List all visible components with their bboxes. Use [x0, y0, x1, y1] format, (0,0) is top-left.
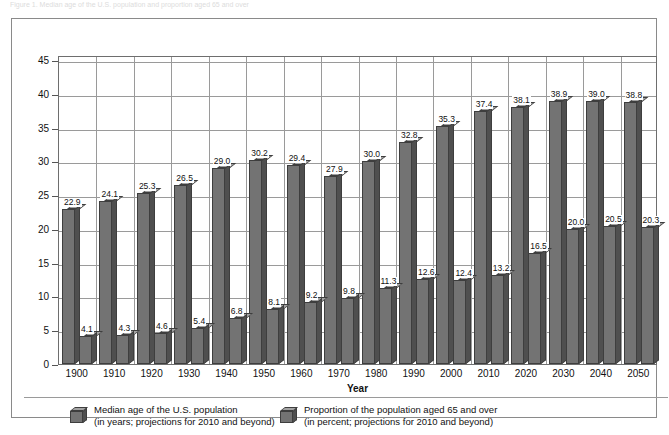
- bar-value-label: 16.5: [529, 242, 548, 251]
- bar-value-label: 29.4: [288, 154, 307, 163]
- top-caption: Figure 1. Median age of the U.S. populat…: [10, 0, 430, 9]
- bar-value-label: 5.4: [192, 317, 206, 326]
- x-tick-label: 2020: [507, 368, 544, 380]
- x-tick-label: 2030: [545, 368, 582, 380]
- x-tick-label: 1990: [395, 368, 432, 380]
- bar-value-label: 30.0: [363, 150, 382, 159]
- x-tick-label: 1930: [170, 368, 207, 380]
- y-tick-label: 35: [38, 124, 49, 134]
- bar-value-label: 38.9: [550, 90, 569, 99]
- figure-frame: 051015202530354045 22.924.125.326.529.03…: [11, 18, 657, 418]
- legend-swatch-proportion-65-plus: [280, 408, 297, 423]
- bar-value-label: 12.6: [417, 268, 436, 277]
- x-axis-title: Year: [58, 383, 657, 394]
- bar-value-label: 38.1: [512, 96, 531, 105]
- bar-value-label: 9.8: [342, 287, 356, 296]
- legend-label-line1: Proportion of the population aged 65 and…: [304, 404, 497, 416]
- y-tick-label: 40: [38, 90, 49, 100]
- bar-value-label: 20.0: [567, 218, 586, 227]
- bar-value-label: 25.3: [138, 182, 157, 191]
- legend-swatch-median-age: [70, 408, 87, 423]
- y-tick-label: 45: [38, 56, 49, 66]
- x-tick-label: 1920: [133, 368, 170, 380]
- bar-value-label: 11.3: [380, 277, 398, 286]
- y-tick-label: 15: [38, 259, 49, 269]
- x-tick-label: 1910: [95, 368, 132, 380]
- x-tick-label: 1970: [320, 368, 357, 380]
- x-tick-label: 1980: [358, 368, 395, 380]
- legend-label-line2: (in percent; projections for 2010 and be…: [304, 416, 497, 428]
- bar-value-label: 38.8: [625, 91, 644, 100]
- x-tick-label: 2000: [432, 368, 469, 380]
- x-tick-label: 1950: [245, 368, 282, 380]
- y-tick-label: 20: [38, 225, 49, 235]
- y-tick-label: 10: [38, 292, 49, 302]
- bar-value-label: 24.1: [100, 190, 119, 199]
- bar-value-label: 13.2: [492, 264, 511, 273]
- bar-value-label: 37.4: [475, 100, 494, 109]
- bar-value-label: 8.1: [267, 298, 281, 307]
- bar-value-label: 22.9: [63, 198, 82, 207]
- legend-label-line2: (in years; projections for 2010 and beyo…: [94, 416, 275, 428]
- bar-value-label: 20.3: [642, 216, 661, 225]
- y-tick-label: 30: [38, 157, 49, 167]
- x-tick-label: 2050: [620, 368, 657, 380]
- y-axis: 051015202530354045: [23, 56, 58, 365]
- x-axis: 1900191019201930194019501960197019801990…: [58, 368, 657, 384]
- bar-value-label: 9.2: [305, 291, 319, 300]
- x-tick-label: 1940: [208, 368, 245, 380]
- bar-value-label: 4.3: [117, 324, 131, 333]
- y-tick-label: 5: [43, 326, 49, 336]
- bar-value-label: 4.1: [80, 325, 94, 334]
- x-tick-label: 1960: [283, 368, 320, 380]
- y-tick-label: 0: [43, 360, 49, 370]
- bar-value-label: 39.0: [587, 90, 606, 99]
- bar-value-label: 29.0: [213, 157, 232, 166]
- value-labels-layer: 22.924.125.326.529.030.229.427.930.032.8…: [59, 57, 656, 364]
- bar-value-label: 30.2: [250, 149, 269, 158]
- bar-value-label: 6.8: [230, 307, 244, 316]
- bar-value-label: 12.4: [454, 269, 473, 278]
- bar-value-label: 35.3: [437, 115, 456, 124]
- bar-value-label: 32.8: [400, 131, 419, 140]
- bar-value-label: 26.5: [175, 174, 194, 183]
- x-tick-label: 1900: [58, 368, 95, 380]
- legend-label-line1: Median age of the U.S. population: [94, 404, 275, 416]
- x-tick-label: 2040: [582, 368, 619, 380]
- bar-value-label: 4.6: [155, 322, 169, 331]
- bar-value-label: 27.9: [325, 165, 344, 174]
- chart-legend: Median age of the U.S. population (in ye…: [24, 397, 668, 435]
- plot-area: 22.924.125.326.529.030.229.427.930.032.8…: [58, 56, 657, 365]
- x-tick-label: 2010: [470, 368, 507, 380]
- bar-value-label: 20.5: [604, 215, 623, 224]
- y-tick-label: 25: [38, 191, 49, 201]
- y-tick-mark: [52, 365, 58, 366]
